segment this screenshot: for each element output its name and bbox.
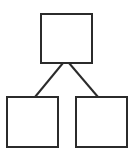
node-root: [41, 14, 92, 63]
edge-root-to-child-left: [35, 63, 63, 97]
tree-diagram: [0, 0, 133, 153]
connector-lines: [35, 63, 98, 97]
node-child-right: [76, 97, 127, 147]
diagram-nodes: [7, 14, 127, 147]
node-child-left: [7, 97, 58, 147]
edge-root-to-child-right: [69, 63, 98, 97]
